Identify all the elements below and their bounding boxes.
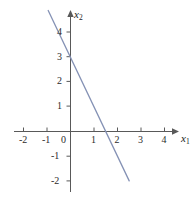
x-tick-label-4: 4: [162, 135, 167, 145]
y-tick-label-1: 1: [57, 101, 62, 111]
graph-figure: -2 -1 0 1 2 3 4 4 3 2 1 -1 -2 x1 x2: [0, 0, 196, 200]
x-tick-label-1: 1: [91, 135, 96, 145]
y-tick-label-2: 2: [57, 76, 62, 86]
x-axis-arrow-icon: [172, 128, 179, 134]
x-tick-label--1: -1: [42, 135, 50, 145]
x-tick-label-3: 3: [138, 135, 143, 145]
y-tick-label-4: 4: [57, 27, 62, 37]
y-tick-label-3: 3: [57, 52, 62, 62]
y-tick-label--1: -1: [51, 151, 59, 161]
y-tick-label--2: -2: [51, 176, 59, 186]
x-axis-ticks: [24, 128, 165, 132]
x-tick-label-2: 2: [115, 135, 120, 145]
y-axis-label: x2: [74, 9, 83, 20]
x-axis-label: x1: [181, 133, 190, 144]
y-axis-arrow-icon: [67, 10, 73, 17]
x-tick-label--2: -2: [19, 135, 27, 145]
y-axis-label-sub: 2: [79, 13, 83, 22]
x-axis-label-sub: 1: [186, 137, 190, 146]
x-tick-label-0-origin: 0: [61, 135, 66, 145]
plot-canvas: [0, 0, 196, 200]
